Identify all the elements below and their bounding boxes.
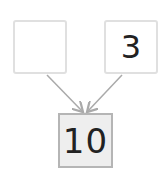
- part-right-value: 3: [121, 28, 141, 66]
- arrow-right-to-whole: [88, 75, 122, 111]
- part-box-left-empty[interactable]: [13, 20, 67, 74]
- arrow-left-to-whole: [47, 75, 82, 111]
- whole-value: 10: [63, 121, 108, 161]
- whole-box: 10: [58, 113, 113, 168]
- part-box-right: 3: [104, 20, 158, 74]
